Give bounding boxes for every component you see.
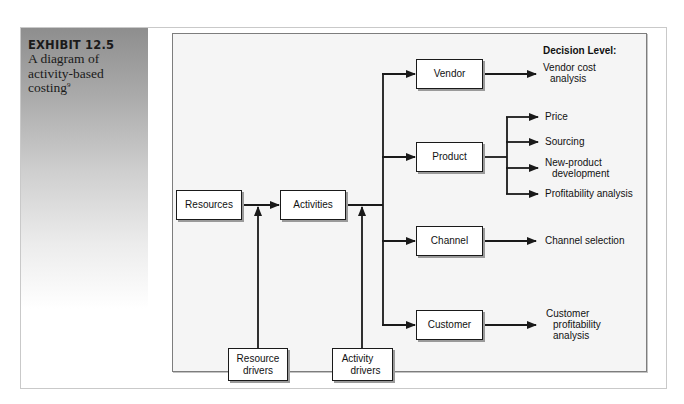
vendor-box: Vendor [416,59,483,89]
decision-price: Price [545,111,568,123]
decision-channel-selection: Channel selection [545,235,625,247]
vendor-label: Vendor [434,68,466,80]
decision-customer-line3: analysis [553,330,589,342]
channel-label: Channel [431,235,468,247]
decision-new-product-line2: development [552,168,609,180]
activities-box: Activities [280,190,346,220]
customer-box: Customer [416,310,483,340]
product-label: Product [432,151,466,163]
activity-drivers-box: Activity drivers [332,348,393,381]
activity-drivers-label-line2: drivers [350,365,380,377]
channel-box: Channel [416,226,483,256]
activity-drivers-label-line1: Activity [342,353,374,365]
decision-profitability-analysis: Profitability analysis [545,188,633,200]
activities-label: Activities [293,199,332,211]
resources-box: Resources [176,190,242,220]
decision-level-title: Decision Level: [543,45,616,56]
resource-drivers-label-line2: drivers [243,365,273,377]
resource-drivers-box: Resource drivers [228,348,288,381]
resource-drivers-label-line1: Resource [237,353,280,365]
product-box: Product [416,142,483,172]
resources-label: Resources [185,199,233,211]
decision-vendor-line2: analysis [550,73,586,85]
customer-label: Customer [428,319,471,331]
decision-sourcing: Sourcing [545,136,584,148]
